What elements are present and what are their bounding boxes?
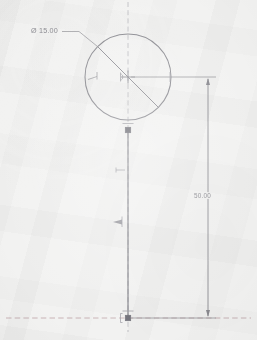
diameter-leader	[62, 32, 98, 47]
constraint-marker-coincident-upper[interactable]	[116, 168, 125, 173]
cad-sketch-canvas[interactable]	[0, 0, 257, 340]
constraint-marker-coincident-lower[interactable]	[113, 217, 122, 228]
dimension-arrow-top	[206, 78, 210, 85]
line-bottom-point[interactable]	[125, 315, 131, 321]
diameter-dimension-label[interactable]: Ø 15.00	[31, 26, 58, 35]
constraint-markers[interactable]	[88, 72, 125, 227]
dimension-arrow-bottom	[206, 310, 210, 317]
constraint-marker-circle-left[interactable]	[88, 72, 97, 80]
length-dimension-label[interactable]: 50.00	[193, 192, 212, 199]
drawing-sheet: Ø 15.00 50.00	[0, 0, 257, 340]
circle-bottom-point[interactable]	[125, 127, 131, 133]
